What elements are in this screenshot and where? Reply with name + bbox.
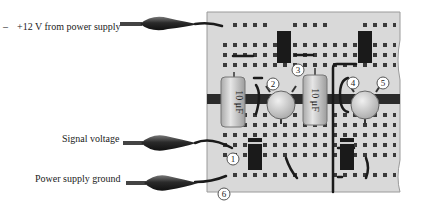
resistor-top-right <box>358 31 372 63</box>
node-6: 6 <box>218 188 230 200</box>
capacitor-1-label: 10 μF <box>234 90 245 114</box>
capacitor-2: 10 μF <box>303 68 327 125</box>
clip-signal <box>123 135 196 150</box>
svg-text:4: 4 <box>351 78 356 88</box>
node-1: 1 <box>227 153 239 165</box>
capacitor-2-label: 10 μF <box>310 88 321 112</box>
clip-ground <box>126 175 198 190</box>
node-3: 3 <box>292 64 304 76</box>
svg-text:5: 5 <box>381 78 386 88</box>
svg-text:3: 3 <box>296 65 301 75</box>
svg-text:1: 1 <box>231 154 236 164</box>
clip-power <box>120 17 198 30</box>
resistor-top-left <box>277 31 291 63</box>
bottom-rail-holes <box>228 172 396 178</box>
svg-text:6: 6 <box>222 189 227 199</box>
node-5: 5 <box>377 77 389 89</box>
top-rail-holes <box>228 22 396 28</box>
capacitor-1: 10 μF <box>221 72 245 127</box>
node-4: 4 <box>347 77 359 89</box>
breadboard-diagram: 10 μF 10 μF <box>0 0 425 208</box>
svg-text:2: 2 <box>271 79 276 89</box>
node-2: 2 <box>267 78 279 90</box>
